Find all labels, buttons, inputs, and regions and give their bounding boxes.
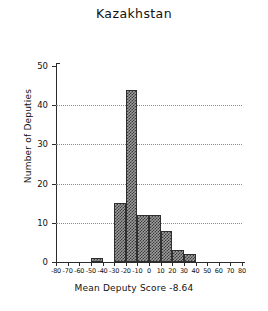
bar [172, 250, 184, 262]
bar [184, 254, 196, 262]
bar [161, 231, 173, 262]
y-axis-top-cap [56, 63, 60, 64]
x-tick--60 [79, 262, 80, 266]
bar [91, 258, 103, 262]
y-tick-label: 10 [14, 218, 48, 228]
x-tick-60 [219, 262, 220, 266]
x-tick--40 [103, 262, 104, 266]
x-tick--10 [137, 262, 138, 266]
plot-area [56, 66, 242, 262]
bars-layer [56, 66, 242, 262]
histogram-figure: Kazakhstan 01020304050 -80-70-60-50-40-3… [0, 0, 268, 311]
bar [149, 215, 161, 262]
x-tick--80 [56, 262, 57, 266]
bar [126, 90, 138, 262]
y-tick-30 [52, 144, 56, 145]
y-tick-20 [52, 184, 56, 185]
x-tick-30 [184, 262, 185, 266]
x-tick-70 [230, 262, 231, 266]
y-tick-label: 0 [14, 257, 48, 267]
y-tick-10 [52, 223, 56, 224]
y-axis-label: Number of Deputies [23, 56, 33, 216]
chart-title: Kazakhstan [0, 6, 268, 21]
x-axis-label: Mean Deputy Score -8.64 [0, 283, 268, 293]
y-tick-40 [52, 105, 56, 106]
x-tick--50 [91, 262, 92, 266]
x-tick-label: 80 [230, 267, 254, 275]
x-tick--20 [126, 262, 127, 266]
x-tick-50 [207, 262, 208, 266]
x-tick-20 [172, 262, 173, 266]
bar [137, 215, 149, 262]
x-tick-0 [149, 262, 150, 266]
x-tick-80 [242, 262, 243, 266]
y-tick-50 [52, 66, 56, 67]
x-tick--70 [68, 262, 69, 266]
bar [114, 203, 126, 262]
x-tick-10 [161, 262, 162, 266]
x-tick-40 [196, 262, 197, 266]
x-tick--30 [114, 262, 115, 266]
x-axis-spine [56, 262, 245, 263]
